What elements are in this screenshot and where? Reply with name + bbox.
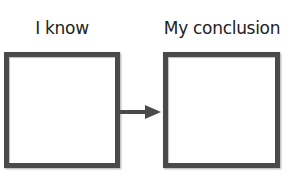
- i-know-box[interactable]: [4, 52, 120, 168]
- my-conclusion-label: My conclusion: [162, 18, 282, 38]
- arrow-right-icon: [119, 104, 163, 120]
- my-conclusion-box[interactable]: [163, 52, 280, 168]
- i-know-label: I know: [4, 18, 120, 38]
